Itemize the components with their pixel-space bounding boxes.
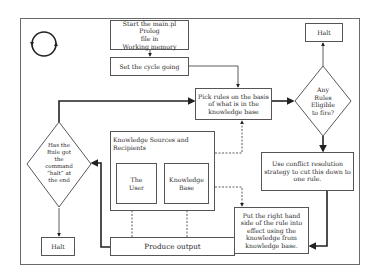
- circular-arrows-icon: [30, 32, 58, 56]
- halt-top-label: Halt: [317, 29, 331, 37]
- any-rules-line-1: Any: [303, 86, 343, 94]
- conflict-line-3: one rule.: [294, 175, 322, 183]
- start-box: Start the main.pl Prolog file in Working…: [110, 20, 189, 50]
- start-line-3: Working memory: [123, 43, 177, 51]
- produce-output-box: Produce output: [110, 237, 235, 256]
- halt-bottom-box: Halt: [41, 237, 75, 256]
- knowledge-base-line-1: Knowledge: [169, 176, 204, 184]
- conflict-line-2: strategy to cut this down to: [264, 168, 351, 176]
- has-halt-text: Has the Rule got the command “halt” at t…: [36, 142, 82, 184]
- pick-rules-line-1: Pick rules on the basis: [198, 93, 269, 101]
- put-rhs-line-2: side of the rule into: [241, 219, 303, 227]
- set-cycle-label: Set the cycle going: [119, 63, 179, 71]
- any-rules-line-4: to fire?: [303, 109, 343, 117]
- the-user-box: The User: [116, 163, 157, 204]
- conflict-resolution-box: Use conflict resolution strategy to cut …: [261, 152, 354, 191]
- put-rhs-box: Put the right hand side of the rule into…: [234, 207, 309, 254]
- knowledge-base-line-2: Base: [179, 184, 194, 192]
- produce-output-label: Produce output: [144, 243, 200, 251]
- put-rhs-line-3: effect using the: [247, 227, 296, 235]
- has-halt-line-1: Has the: [36, 142, 82, 149]
- put-rhs-line-5: knowledge base.: [245, 242, 297, 250]
- conflict-line-1: Use conflict resolution: [272, 160, 343, 168]
- halt-bottom-label: Halt: [51, 243, 65, 251]
- any-rules-text: Any Rules Eligible to fire?: [303, 86, 343, 116]
- halt-top-box: Halt: [305, 23, 343, 42]
- set-cycle-box: Set the cycle going: [110, 57, 189, 76]
- has-halt-line-2: Rule got: [36, 149, 82, 156]
- pick-rules-box: Pick rules on the basis of what is in th…: [195, 88, 272, 120]
- has-halt-line-6: the end: [36, 177, 82, 184]
- has-halt-line-3: the: [36, 156, 82, 163]
- pick-rules-line-2: of what is in the: [208, 100, 259, 108]
- put-rhs-line-1: Put the right hand: [243, 212, 301, 220]
- knowledge-sources-line-2: Recipients: [113, 144, 146, 152]
- the-user-line-2: User: [129, 184, 144, 192]
- any-rules-line-2: Rules: [303, 94, 343, 102]
- pick-rules-line-3: knowledge base: [208, 108, 258, 116]
- start-line-2: file in: [141, 35, 159, 43]
- any-rules-line-3: Eligible: [303, 101, 343, 109]
- has-halt-line-4: command: [36, 163, 82, 170]
- put-rhs-line-4: knowledge from: [246, 234, 297, 242]
- the-user-line-1: The: [131, 176, 143, 184]
- knowledge-sources-line-1: Knowledge Sources and: [113, 136, 189, 144]
- knowledge-base-box: Knowledge Base: [164, 163, 209, 204]
- has-halt-line-5: “halt” at: [36, 170, 82, 177]
- start-line-1: Start the main.pl Prolog: [113, 20, 186, 35]
